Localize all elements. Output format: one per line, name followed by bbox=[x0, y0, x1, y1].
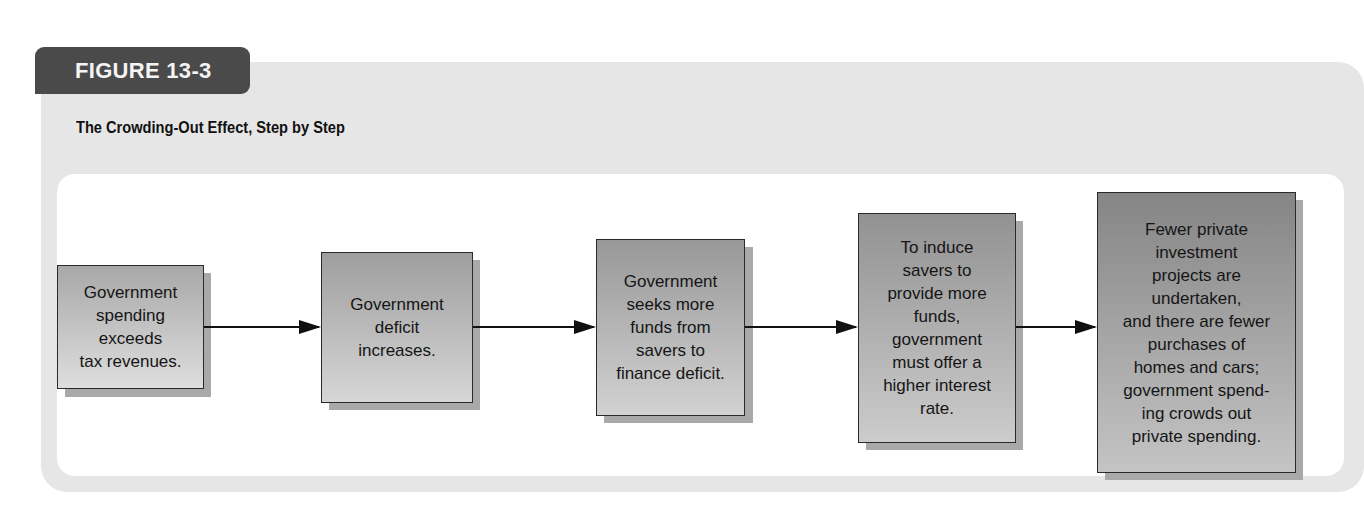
figure-label: FIGURE 13-3 bbox=[35, 47, 250, 94]
step-3-box: Government seeks more funds from savers … bbox=[596, 239, 745, 416]
figure-title: The Crowding-Out Effect, Step by Step bbox=[76, 118, 345, 138]
step-5-text: Fewer private investment projects are un… bbox=[1123, 218, 1270, 448]
arrow-right-icon bbox=[204, 326, 319, 328]
arrow-right-icon bbox=[473, 326, 594, 328]
step-1-box: Government spending exceeds tax revenues… bbox=[57, 265, 204, 389]
step-4-box: To induce savers to provide more funds, … bbox=[858, 213, 1016, 443]
step-1-text: Government spending exceeds tax revenues… bbox=[79, 281, 181, 373]
arrow-right-icon bbox=[1016, 326, 1095, 328]
step-3-text: Government seeks more funds from savers … bbox=[616, 270, 725, 385]
step-2-box: Government deficit increases. bbox=[321, 252, 473, 403]
step-5-box: Fewer private investment projects are un… bbox=[1097, 192, 1296, 473]
step-2-text: Government deficit increases. bbox=[350, 293, 444, 362]
arrow-right-icon bbox=[745, 326, 856, 328]
step-4-text: To induce savers to provide more funds, … bbox=[883, 236, 991, 420]
